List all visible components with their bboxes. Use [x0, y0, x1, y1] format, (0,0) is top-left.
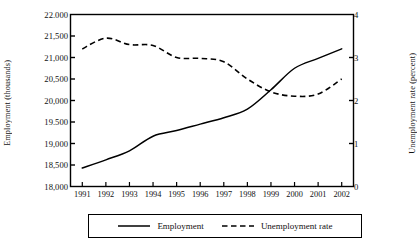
- legend-item-unemployment: Unemployment rate: [221, 221, 333, 231]
- series-line-unemployment: [82, 38, 341, 96]
- series-line-employment: [82, 49, 341, 168]
- legend-label-unemployment: Unemployment rate: [261, 221, 333, 231]
- legend-swatch-dashed-line-icon: [221, 222, 255, 230]
- chart-legend: Employment Unemployment rate: [88, 214, 362, 238]
- legend-item-employment: Employment: [117, 221, 204, 231]
- plot-frame: [71, 15, 354, 187]
- plot-area: [0, 0, 418, 245]
- legend-swatch-solid-line-icon: [117, 222, 151, 230]
- legend-label-employment: Employment: [157, 221, 204, 231]
- chart-figure: Employment (thousands) Unemployment rate…: [0, 0, 418, 245]
